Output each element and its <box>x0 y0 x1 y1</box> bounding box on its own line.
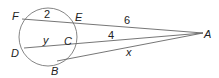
point-C-label: C <box>64 35 72 47</box>
segment-EA-label: 6 <box>124 14 130 26</box>
segment-DC-label: y <box>42 34 50 46</box>
point-F-label: F <box>12 10 20 22</box>
point-A-label: A <box>203 28 211 40</box>
segment-BA-label: x <box>125 46 132 58</box>
diagram-canvas: F E D C B A 2 6 y 4 x <box>0 0 219 78</box>
point-B-label: B <box>51 65 58 77</box>
segment-FE-label: 2 <box>44 8 50 20</box>
point-E-label: E <box>75 11 83 23</box>
segment-CA-label: 4 <box>108 29 114 41</box>
point-D-label: D <box>11 47 19 59</box>
